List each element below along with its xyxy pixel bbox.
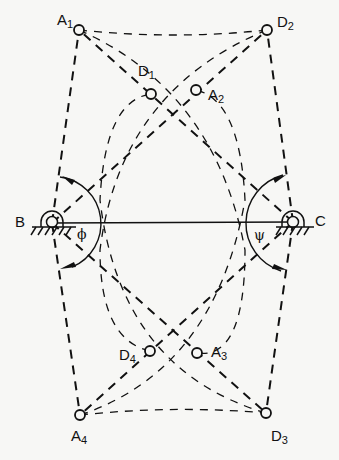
pivot-c [276,211,314,235]
label-b: B [15,214,25,229]
link-b-a4 [52,223,80,415]
label-d1: D1 [138,63,155,81]
label-c: C [315,213,326,228]
angle-label-psi: ψ [254,228,265,242]
joint-d1 [146,89,156,99]
joint-d3 [261,408,271,418]
joint-d2 [262,25,272,35]
label-d2: D2 [277,14,294,32]
label-d3: D3 [271,428,288,446]
angle-arc-psi [246,175,283,271]
diagram-drawing [0,0,339,460]
link-b-d2 [52,30,267,223]
arc-a1-d2 [79,30,267,35]
joint-a2 [191,85,201,95]
label-d4: D4 [119,347,136,365]
link-b-a1 [52,30,79,223]
angle-arc-phi [60,177,101,267]
label-a4: A4 [71,428,87,446]
arc-d3-outer [100,94,266,413]
joint-a4 [75,410,85,420]
link-c-a1 [79,30,293,222]
label-a2: A2 [208,87,224,105]
ground-link-bc [52,222,293,223]
linkage-diagram: B C ϕ ψ A1 D1 A2 D2 D4 A3 A4 D3 [0,0,339,460]
arc-a4-outer [80,90,245,415]
angle-label-phi: ϕ [77,227,87,241]
arc-a1-outer [79,30,245,353]
arrowhead-psi-bottom [272,264,287,270]
link-c-d3 [266,222,293,413]
joint-a3 [192,348,202,358]
arc-a4-d3 [80,409,266,415]
link-b-a3 [52,223,266,413]
arrowhead-phi-bottom [60,262,76,269]
arc-d2-outer [100,30,267,351]
joint-d4 [145,346,155,356]
joint-a1 [74,25,84,35]
label-a1: A1 [57,12,73,30]
arrowhead-phi-top [62,176,75,185]
label-a3: A3 [211,344,227,362]
link-c-d2 [267,30,293,222]
